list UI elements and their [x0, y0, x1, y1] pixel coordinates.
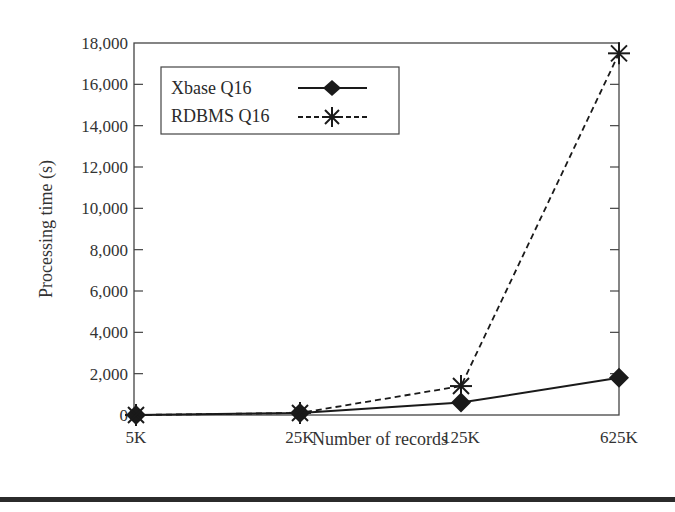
y-axis-title: Processing time (s) [36, 160, 57, 298]
asterisk-marker-icon [450, 375, 472, 397]
y-tick-label: 4,000 [90, 323, 128, 342]
legend-label-rdbms: RDBMS Q16 [171, 106, 270, 126]
asterisk-marker-icon [289, 402, 311, 424]
legend-label-xbase: Xbase Q16 [171, 78, 251, 98]
y-tick-label: 10,000 [81, 199, 128, 218]
y-tick-label: 8,000 [90, 241, 128, 260]
y-tick-label: 6,000 [90, 282, 128, 301]
x-tick-label: 5K [126, 428, 148, 447]
asterisk-marker-icon [322, 107, 342, 127]
x-tick-label: 625K [600, 428, 639, 447]
x-tick-label: 25K [285, 428, 315, 447]
x-axis-title: Number of records [312, 429, 448, 449]
line-chart: 02,0004,0006,0008,00010,00012,00014,0001… [0, 0, 675, 512]
y-tick-label: 18,000 [81, 34, 128, 53]
asterisk-marker-icon [608, 42, 630, 64]
legend: Xbase Q16 RDBMS Q16 [161, 67, 399, 134]
bottom-rule [0, 497, 675, 502]
y-tick-label: 16,000 [81, 75, 128, 94]
y-tick-label: 12,000 [81, 158, 128, 177]
y-tick-label: 2,000 [90, 365, 128, 384]
series-line-xbase [136, 378, 619, 415]
y-tick-label: 14,000 [81, 117, 128, 136]
diamond-marker-icon [609, 368, 629, 388]
asterisk-marker-icon [125, 404, 147, 426]
